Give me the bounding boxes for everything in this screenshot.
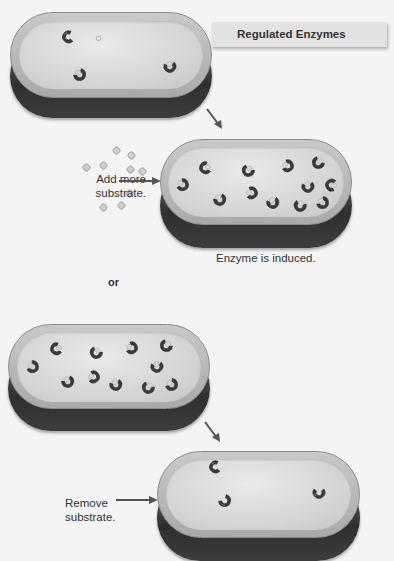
remove-substrate-label: Remove substrate.: [65, 496, 116, 524]
title-text: Regulated Enzymes: [237, 28, 346, 40]
substrate-icon: [127, 151, 137, 161]
substrate-icon: [99, 161, 109, 171]
enzyme-icon: [59, 28, 78, 47]
induced-cell: [160, 139, 352, 248]
enzyme-bound-icon: [299, 178, 318, 197]
substrate-icon: [112, 146, 122, 156]
arrow-icon: [205, 107, 225, 131]
repressed-cell: [157, 451, 360, 561]
arrow-right-icon: [119, 176, 161, 186]
initial-cell: [10, 12, 212, 118]
cell-interior: [19, 21, 203, 89]
substrate-icon: [82, 163, 92, 173]
enzyme-bound-icon: [161, 58, 180, 77]
substrate-icon: [99, 203, 109, 213]
enzyme-bound-icon: [148, 358, 167, 377]
enzyme-icon: [311, 485, 327, 501]
high-enzyme-cell: [8, 324, 210, 431]
substrate-icon: [117, 201, 127, 211]
arrow-right-icon: [116, 495, 158, 505]
title-banner: Regulated Enzymes: [212, 22, 387, 47]
enzyme-induced-caption: Enzyme is induced.: [216, 251, 316, 265]
enzyme-bound-icon: [322, 176, 341, 195]
enzyme-icon: [206, 458, 225, 477]
or-separator: or: [108, 275, 119, 289]
enzyme-bound-icon: [85, 368, 104, 387]
enzyme-bound-icon: [243, 184, 262, 203]
arrow-icon: [203, 420, 223, 444]
